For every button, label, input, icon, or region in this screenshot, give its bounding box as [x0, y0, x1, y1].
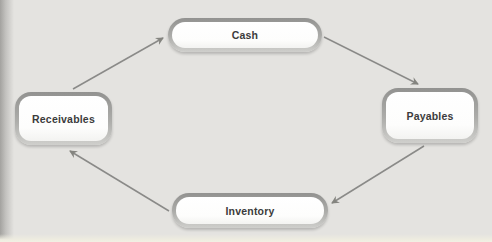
node-receivables-face: Receivables [19, 96, 108, 141]
node-payables-face: Payables [386, 92, 474, 139]
node-inventory-face: Inventory [176, 197, 324, 224]
node-payables: Payables [382, 88, 478, 143]
node-inventory-label: Inventory [225, 205, 274, 217]
node-receivables: Receivables [15, 92, 112, 145]
node-payables-label: Payables [406, 110, 453, 122]
page-gutter-shading [0, 0, 14, 242]
arrow-cash-to-payables [324, 37, 418, 84]
node-receivables-label: Receivables [32, 113, 95, 125]
node-cash-face: Cash [172, 22, 318, 48]
arrow-inventory-to-receivables [70, 151, 169, 211]
node-cash: Cash [168, 18, 322, 52]
cash-cycle-diagram: Cash Payables Inventory Receivables [0, 0, 492, 242]
page-bottom-edge [0, 234, 492, 242]
node-cash-label: Cash [232, 29, 258, 41]
node-inventory: Inventory [172, 193, 328, 228]
arrow-receivables-to-cash [73, 38, 163, 89]
arrow-payables-to-inventory [332, 146, 424, 203]
